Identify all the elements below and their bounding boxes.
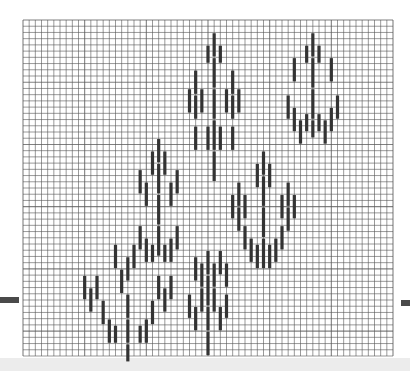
- stitch: [231, 71, 234, 94]
- stitch: [243, 195, 246, 218]
- stitch: [324, 120, 327, 143]
- stitch: [206, 127, 209, 150]
- stitch: [237, 89, 240, 112]
- stitch: [83, 276, 86, 299]
- stitch: [145, 319, 148, 342]
- stitch: [225, 89, 228, 112]
- stitch: [311, 120, 314, 137]
- stitch: [120, 270, 123, 293]
- stitch: [206, 276, 209, 306]
- stitch: [293, 58, 296, 81]
- stitch: [213, 120, 216, 150]
- stitch: [219, 251, 222, 274]
- stitch: [157, 195, 160, 225]
- stitch: [219, 127, 222, 150]
- stitch: [206, 332, 209, 355]
- stitch: [126, 257, 129, 280]
- stitch: [213, 151, 216, 181]
- stitch: [305, 46, 308, 63]
- stitch: [262, 239, 265, 269]
- stitch: [311, 58, 314, 88]
- stitch: [274, 239, 277, 262]
- stitch: [163, 288, 166, 311]
- stitch: [194, 127, 197, 150]
- stitch: [194, 71, 197, 94]
- stitch: [293, 108, 296, 131]
- stitch: [330, 58, 333, 81]
- stitch: [330, 108, 333, 131]
- stitch: [145, 183, 148, 206]
- stitch: [139, 326, 142, 343]
- stitch: [287, 183, 290, 206]
- stitch: [213, 58, 216, 88]
- stitch: [262, 207, 265, 237]
- stitch: [169, 239, 172, 262]
- stitch: [219, 307, 222, 330]
- stitch: [151, 245, 154, 262]
- stitch: [237, 207, 240, 230]
- stitch: [151, 301, 154, 324]
- stitch: [206, 251, 209, 274]
- stitch: [157, 276, 160, 299]
- stitch: [317, 46, 320, 63]
- stitch: [243, 226, 246, 249]
- stitch: [262, 151, 265, 174]
- stitch: [145, 239, 148, 262]
- stitch: [157, 226, 160, 256]
- stitch: [213, 89, 216, 119]
- stitch: [176, 226, 179, 249]
- stitch: [108, 319, 111, 342]
- stitch: [139, 226, 142, 249]
- stitch: [268, 245, 271, 268]
- stitch: [213, 288, 216, 311]
- stitch: [114, 245, 117, 268]
- stitch: [299, 120, 302, 143]
- stitch: [169, 183, 172, 206]
- stitch: [163, 245, 166, 262]
- stitch: [114, 326, 117, 343]
- stitch: [126, 344, 129, 361]
- stitch: [126, 295, 129, 318]
- stitch: [126, 319, 129, 342]
- stitch: [317, 114, 320, 131]
- stitch: [213, 33, 216, 56]
- stitch: [206, 46, 209, 63]
- stitch: [139, 170, 142, 193]
- stitch: [194, 307, 197, 330]
- stitch: [305, 114, 308, 131]
- stitch: [169, 276, 172, 299]
- stitch: [231, 95, 234, 118]
- stitch: [250, 239, 253, 262]
- stitch: [287, 207, 290, 230]
- stitch: [200, 288, 203, 311]
- stitch: [89, 288, 92, 311]
- stitch: [194, 95, 197, 118]
- stitch: [231, 127, 234, 150]
- stitch: [194, 257, 197, 280]
- stitch: [151, 151, 154, 174]
- stitch: [132, 245, 135, 268]
- graph-grid: [23, 20, 393, 356]
- stitch: [225, 295, 228, 318]
- motif-bottom-center: [188, 251, 228, 355]
- stitch: [102, 301, 105, 324]
- stitch: [256, 245, 259, 268]
- stitch: [200, 263, 203, 286]
- stitch: [176, 170, 179, 193]
- stitch: [280, 195, 283, 218]
- stitch: [188, 295, 191, 318]
- stitch: [163, 151, 166, 174]
- stitch: [293, 195, 296, 218]
- stitch: [219, 46, 222, 63]
- stitch: [287, 95, 290, 118]
- stitch: [157, 164, 160, 194]
- stitch: [237, 183, 240, 206]
- stitch: [188, 89, 191, 112]
- stitch: [262, 176, 265, 206]
- stitch: [213, 263, 216, 286]
- stitch: [231, 195, 234, 218]
- stitch: [311, 33, 314, 56]
- stitch: [311, 89, 314, 119]
- stitch: [268, 164, 271, 187]
- stitch: [280, 226, 283, 249]
